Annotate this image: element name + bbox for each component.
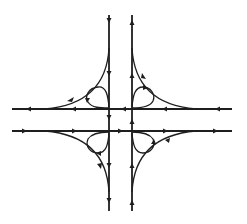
arrow-up-icon (130, 163, 135, 168)
diagram-svg (0, 0, 247, 224)
arrow-left-icon (215, 107, 220, 112)
arrow-up-icon (130, 119, 135, 124)
loop-ramps (87, 87, 154, 153)
arrow-down-icon (107, 115, 112, 120)
arrow-right-icon (72, 129, 77, 134)
arrow-left-icon (121, 107, 126, 112)
ramp-top-right (132, 48, 196, 109)
loop-bottom-left (87, 132, 109, 153)
arrow-ramp-icon (141, 73, 146, 79)
arrow-down-icon (107, 18, 112, 23)
arrow-up-icon (130, 20, 135, 25)
arrow-right-icon (118, 129, 123, 134)
arrow-up-icon (130, 200, 135, 205)
main-roads (12, 15, 232, 211)
arrow-down-icon (107, 71, 112, 76)
ramp-bottom-left (45, 131, 109, 192)
loop-top-left (87, 87, 109, 108)
ramp-arrows (67, 73, 170, 169)
arrow-right-icon (213, 129, 218, 134)
ramp-bottom-right (132, 131, 196, 192)
road-arrows (22, 18, 220, 205)
arrow-left-icon (71, 107, 76, 112)
arrow-right-icon (163, 129, 168, 134)
loop-bottom-right (132, 132, 154, 153)
arrow-down-icon (107, 163, 112, 168)
arrow-left-icon (26, 107, 31, 112)
arrow-up-icon (130, 73, 135, 78)
outer-ramps (45, 48, 196, 192)
ramp-top-left (45, 48, 109, 109)
arrow-left-icon (162, 107, 167, 112)
loop-top-right (132, 87, 154, 108)
arrow-down-icon (107, 198, 112, 203)
cloverleaf-interchange-diagram (0, 0, 247, 224)
arrow-ramp-icon (97, 163, 102, 169)
arrow-right-icon (22, 129, 27, 134)
arrow-ramp-icon (67, 97, 74, 102)
